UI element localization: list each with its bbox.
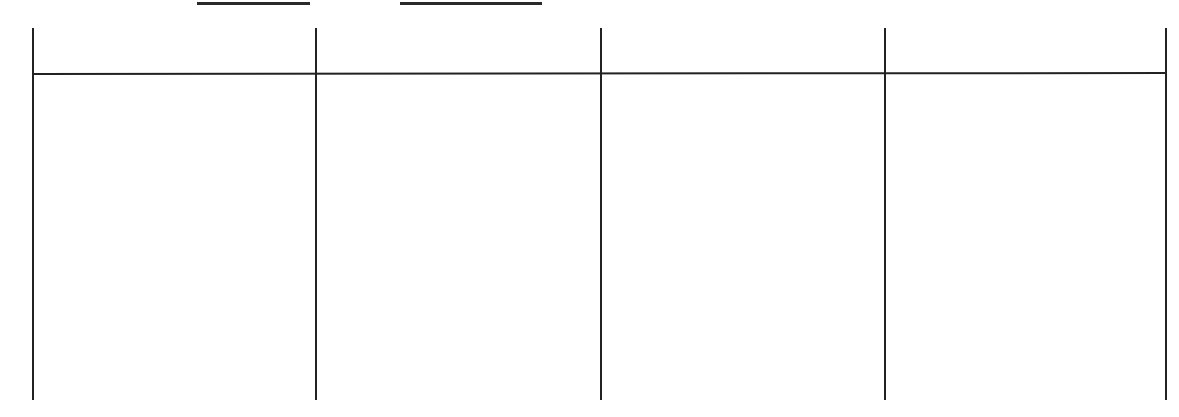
fill-in-blank-1[interactable]	[197, 2, 310, 5]
table-body-cell-1[interactable]	[34, 75, 315, 400]
table-body-cell-4[interactable]	[886, 75, 1165, 400]
fill-in-blank-2[interactable]	[400, 2, 542, 5]
table-header-cell-3[interactable]	[602, 28, 884, 73]
table-body-cell-3[interactable]	[602, 75, 884, 400]
table-header-cell-4[interactable]	[886, 28, 1165, 73]
header-text-cutoff	[0, 0, 190, 3]
table-header-cell-2[interactable]	[317, 28, 600, 73]
table-border-right	[1165, 28, 1167, 400]
table-header-cell-1[interactable]	[34, 28, 315, 73]
table-body-cell-2[interactable]	[317, 75, 600, 400]
header-label-cutoff	[320, 0, 390, 3]
